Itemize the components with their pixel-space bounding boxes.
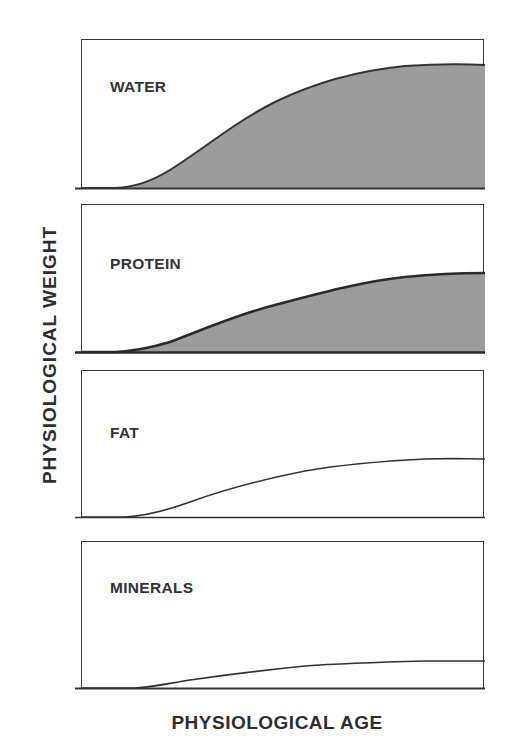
panel-minerals: MINERALS	[81, 541, 484, 688]
protein-curve	[75, 205, 485, 355]
panel-protein: PROTEIN	[81, 204, 484, 352]
water-curve	[75, 40, 485, 190]
y-axis-label: PHYSIOLOGICAL WEIGHT	[39, 226, 61, 484]
x-axis-label: PHYSIOLOGICAL AGE	[0, 712, 514, 734]
fat-curve	[75, 371, 485, 521]
minerals-curve	[75, 542, 485, 692]
panel-fat: FAT	[81, 370, 484, 517]
panel-water: WATER	[81, 39, 484, 188]
